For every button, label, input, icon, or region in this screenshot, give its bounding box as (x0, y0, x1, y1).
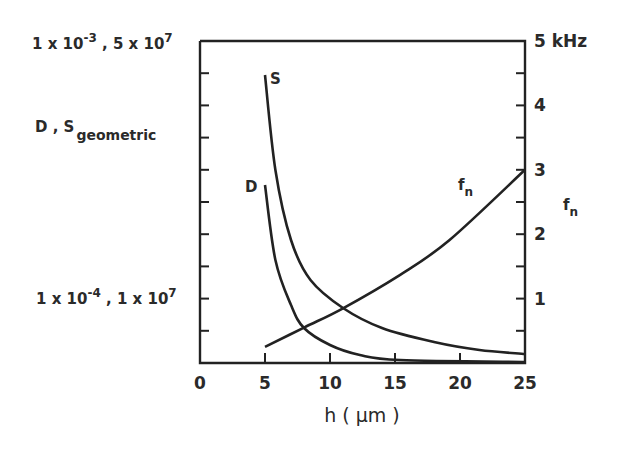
right-axis-tick-labels: 12345 kHz (534, 31, 587, 309)
left-axis-ticks (200, 73, 209, 331)
tick-label: 5 (259, 373, 271, 393)
left-axis-lower-label: 1 x 10-4 , 1 x 107 (36, 286, 177, 308)
right-axis-ticks (516, 73, 525, 331)
tick-label: 15 (383, 373, 407, 393)
series-D-label: D (245, 178, 257, 196)
series-D-curve (265, 185, 525, 362)
left-axis-top-label: 1 x 10-3 , 5 x 107 (32, 31, 173, 53)
tick-label: 5 kHz (534, 31, 587, 51)
x-axis-tick-labels: 0510152025 (194, 373, 537, 393)
series-S-label: S (270, 70, 281, 88)
x-axis-title: h ( μm ) (324, 404, 400, 426)
chart: 0510152025 12345 kHz S D fn 1 x 10-3 , 5… (0, 0, 622, 450)
right-axis-title: fn (563, 196, 578, 219)
left-axis-title: D , Sgeometric (35, 118, 156, 143)
series-fn-label: fn (458, 176, 473, 199)
tick-label: 10 (318, 373, 342, 393)
tick-label: 1 (534, 289, 546, 309)
tick-label: 4 (534, 95, 546, 115)
tick-label: 3 (534, 160, 546, 180)
tick-label: 25 (513, 373, 537, 393)
tick-label: 2 (534, 224, 546, 244)
series-S-curve (265, 75, 525, 354)
tick-label: 20 (448, 373, 472, 393)
plot-frame (200, 41, 525, 363)
tick-label: 0 (194, 373, 206, 393)
series-fn-curve (265, 170, 525, 347)
series-fn-label-sub: n (465, 185, 474, 199)
